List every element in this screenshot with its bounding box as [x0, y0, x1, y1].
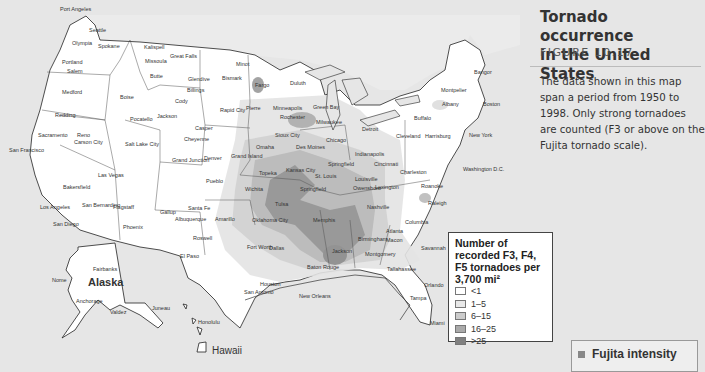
city-label: Carson City — [74, 140, 103, 146]
city-label: Minot — [236, 62, 249, 68]
city-label: Wichita — [245, 187, 263, 193]
city-label: Miami — [430, 321, 445, 327]
city-label: Cody — [175, 99, 188, 105]
city-label: Santa Fe — [188, 206, 210, 212]
city-label: Anchorage — [76, 299, 103, 305]
city-label: Pueblo — [206, 179, 223, 185]
city-label: Amarillo — [215, 217, 235, 223]
city-label: Orlando — [424, 283, 444, 289]
city-label: Billings — [187, 88, 204, 94]
city-label: Springfield — [328, 162, 354, 168]
legend-swatch — [455, 325, 466, 333]
city-label: Oklahoma City — [252, 218, 288, 224]
city-label: Montgomery — [365, 252, 396, 258]
city-label: Lexington — [375, 185, 399, 191]
city-label: Baton Rouge — [307, 265, 339, 271]
city-label: Bangor — [474, 70, 492, 76]
alaska-label: Alaska — [88, 277, 123, 288]
city-label: Seattle — [89, 28, 106, 34]
city-label: Columbia — [405, 220, 428, 226]
city-label: Reno — [77, 133, 90, 139]
city-label: Springfield — [300, 187, 326, 193]
hawaii-label: Hawaii — [212, 346, 242, 356]
city-label: El Paso — [180, 254, 199, 260]
city-label: Memphis — [313, 218, 335, 224]
legend-swatch — [455, 337, 466, 345]
legend-label: 1–5 — [471, 299, 486, 309]
city-label: Jackson — [332, 249, 352, 255]
city-label: Albany — [442, 102, 459, 108]
city-label: Birmingham — [358, 237, 387, 243]
city-label: Charleston — [400, 170, 427, 176]
city-label: Cincinnati — [374, 162, 398, 168]
city-label: Sioux City — [275, 133, 300, 139]
city-label: Grand Island — [231, 154, 263, 160]
city-label: Indianapolis — [355, 152, 384, 158]
city-label: Bismark — [222, 76, 242, 82]
city-label: Roanoke — [421, 184, 443, 190]
city-label: Cleveland — [396, 134, 420, 140]
city-label: Phoenix — [123, 225, 143, 231]
legend-label: >25 — [471, 336, 486, 346]
city-label: Atlanta — [386, 229, 403, 235]
city-label: Fargo — [255, 83, 269, 89]
figure-sidebar: Tornado occurrence in the United States … — [530, 0, 701, 358]
city-label: New York — [469, 133, 492, 139]
city-label: Nashville — [367, 205, 389, 211]
city-label: Spokane — [98, 44, 120, 50]
city-label: Honolulu — [198, 320, 220, 326]
city-label: Tampa — [410, 296, 427, 302]
city-label: Missoula — [145, 59, 167, 65]
city-label: Kalispell — [144, 45, 164, 51]
city-label: Tallahassee — [387, 267, 416, 273]
city-label: Buffalo — [414, 116, 431, 122]
legend-swatch — [455, 300, 466, 308]
city-label: Louisville — [355, 177, 378, 183]
legend-swatch — [455, 312, 466, 320]
city-label: Salem — [67, 69, 83, 75]
city-label: Glendive — [188, 77, 210, 83]
city-label: Redding — [55, 113, 76, 119]
legend-swatch — [455, 287, 466, 295]
title-line-1: Tornado occurrence — [540, 8, 701, 46]
divider — [530, 66, 701, 67]
city-label: San Antonio — [244, 290, 274, 296]
city-label: Chicago — [326, 138, 346, 144]
city-label: Roswell — [193, 236, 212, 242]
city-label: Harrisburg — [425, 134, 451, 140]
city-label: Boston — [483, 102, 500, 108]
city-label: Tulsa — [275, 202, 288, 208]
city-label: Green Bay — [313, 105, 339, 111]
fujita-intensity-box: Fujita intensity — [571, 340, 698, 372]
city-label: Portland — [62, 60, 83, 66]
city-label: Olympia — [72, 41, 92, 47]
city-label: New Orleans — [299, 294, 331, 300]
city-label: Pierre — [246, 106, 261, 112]
city-label: Dallas — [269, 246, 284, 252]
city-label: Detroit — [362, 127, 378, 133]
city-label: Raleigh — [428, 201, 447, 207]
city-label: San Diego — [53, 222, 79, 228]
city-label: Rapid City — [220, 108, 245, 114]
city-label: Washington D.C. — [463, 167, 504, 173]
city-label: Topeka — [259, 171, 277, 177]
city-label: Los Angeles — [40, 205, 70, 211]
city-label: Bakersfield — [63, 185, 90, 191]
city-label: Houston — [260, 282, 281, 288]
city-label: St. Louis — [315, 174, 336, 180]
city-label: Albuquerque — [175, 217, 206, 223]
city-label: Juneau — [152, 306, 170, 312]
city-label: Kansas City — [286, 168, 315, 174]
city-label: Montpelier — [441, 88, 467, 94]
city-label: Salt Lake City — [125, 142, 159, 148]
city-label: Duluth — [290, 81, 306, 87]
city-label: Jackson — [157, 114, 177, 120]
city-label: Rochester — [280, 115, 305, 121]
city-label: Butte — [150, 74, 163, 80]
city-label: Fairbanks — [93, 267, 117, 273]
city-label: Valdez — [110, 310, 126, 316]
city-label: Grand Junction — [172, 158, 209, 164]
city-label: Gallup — [160, 210, 176, 216]
figure-description: The data shown in this map span a period… — [540, 74, 705, 154]
city-label: Minneapolis — [273, 106, 302, 112]
